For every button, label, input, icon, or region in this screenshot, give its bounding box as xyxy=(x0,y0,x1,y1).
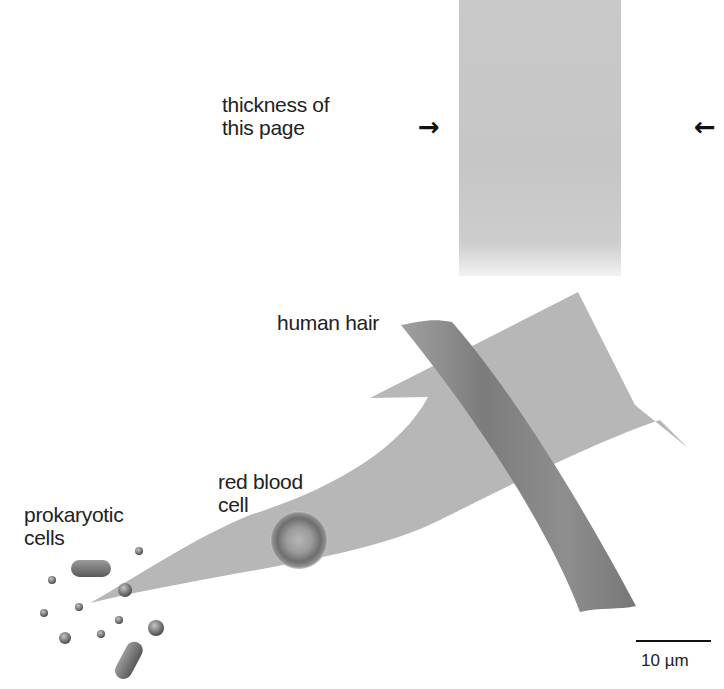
human-hair-label: human hair xyxy=(277,311,379,334)
red-blood-cell xyxy=(270,511,328,569)
scale-bar-label: 10 µm xyxy=(641,651,689,670)
prokaryotic-coccus xyxy=(148,620,164,636)
scale-illustration xyxy=(0,0,724,689)
prokaryotic-coccus xyxy=(40,609,48,617)
prokaryotic-coccus xyxy=(115,616,123,624)
red-blood-cell-label: red blood cell xyxy=(218,470,303,516)
prokaryotic-cells-label: prokaryotic cells xyxy=(24,503,123,549)
prokaryotic-coccus xyxy=(118,583,132,597)
prokaryotic-coccus xyxy=(59,632,71,644)
prokaryotic-coccus xyxy=(135,547,143,555)
figure-canvas: → ← thickness of this page xyxy=(0,0,724,689)
prokaryotic-coccus xyxy=(75,603,83,611)
prokaryotic-coccus xyxy=(48,576,56,584)
prokaryotic-rod-cell xyxy=(71,560,111,577)
prokaryotic-rod-cell xyxy=(112,639,146,682)
prokaryotic-coccus xyxy=(97,630,105,638)
scale-bar xyxy=(636,640,711,642)
